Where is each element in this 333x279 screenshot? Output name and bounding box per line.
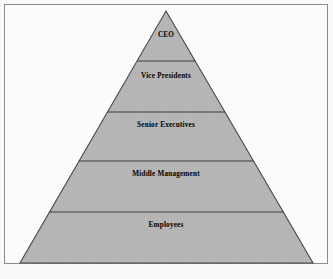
pyramid-tier-label-employees: Employees xyxy=(149,221,184,229)
figure-canvas: CEO Vice Presidents Senior Executives Mi… xyxy=(0,0,333,279)
pyramid-tier-label-senior-executives: Senior Executives xyxy=(137,121,195,129)
pyramid-diagram xyxy=(0,0,333,279)
pyramid-tier-label-ceo: CEO xyxy=(158,31,174,39)
pyramid-tier-label-middle-management: Middle Management xyxy=(132,170,199,178)
pyramid-tier-label-vice-presidents: Vice Presidents xyxy=(141,72,191,80)
